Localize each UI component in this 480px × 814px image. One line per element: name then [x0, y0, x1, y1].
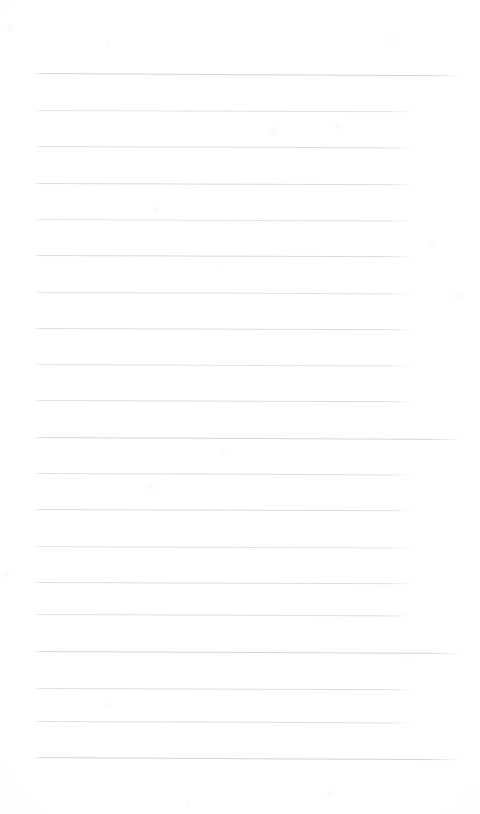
- ruled-line-ink: [33, 400, 413, 402]
- ruled-line-ink: [33, 614, 412, 616]
- ruled-line-ink: [33, 582, 413, 584]
- ruled-line: [33, 582, 413, 584]
- ruled-line-ink: [33, 219, 412, 222]
- ruled-line-ink: [33, 546, 412, 549]
- ruled-line: [33, 721, 412, 723]
- ruled-line: [33, 73, 461, 76]
- ruled-line-ink: [33, 509, 413, 511]
- ruled-line: [33, 473, 412, 475]
- ruled-line: [33, 219, 412, 222]
- ruled-line: [33, 437, 461, 440]
- ruled-line: [33, 364, 412, 367]
- ruled-line-ink: [33, 364, 412, 367]
- ruled-line: [33, 509, 413, 511]
- ruled-line: [33, 146, 412, 148]
- ruled-line: [33, 400, 413, 402]
- ruled-line-ink: [33, 183, 413, 185]
- ruled-line-ink: [33, 721, 412, 723]
- ruled-line-ink: [33, 757, 461, 760]
- ruled-line-ink: [33, 651, 461, 654]
- ruled-line-ink: [33, 73, 461, 76]
- ruled-line-ink: [33, 110, 413, 112]
- ruled-line: [33, 183, 413, 185]
- ruled-line: [33, 255, 413, 257]
- ruled-line: [33, 614, 412, 616]
- ruled-line-ink: [33, 146, 412, 148]
- ruled-line-ink: [33, 688, 413, 690]
- scanned-notebook-page: [0, 0, 480, 814]
- ruled-line-ink: [33, 255, 413, 257]
- ruled-line-ink: [33, 437, 461, 440]
- ruled-line-ink: [33, 473, 412, 475]
- ruled-line-ink: [33, 292, 412, 294]
- ruled-line-layer: [0, 0, 480, 814]
- ruled-line-ink: [33, 328, 413, 330]
- ruled-line: [33, 292, 412, 294]
- ruled-line: [33, 651, 461, 654]
- ruled-line: [33, 757, 461, 760]
- ruled-line: [33, 110, 413, 112]
- ruled-line: [33, 688, 413, 690]
- ruled-line: [33, 328, 413, 330]
- ruled-line: [33, 546, 412, 549]
